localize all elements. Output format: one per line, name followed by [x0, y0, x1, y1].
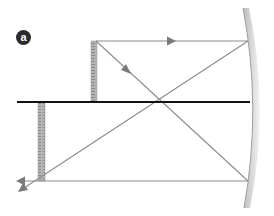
image-ruler	[38, 103, 45, 181]
figure-label-badge: a	[16, 30, 31, 45]
arrow-down-left-icon	[18, 183, 28, 192]
ray-diagram	[0, 0, 274, 216]
focal-ray-down	[96, 41, 248, 181]
object-ruler	[91, 41, 97, 101]
reflected-through-focus	[24, 41, 248, 188]
arrow-right-icon	[167, 37, 176, 46]
